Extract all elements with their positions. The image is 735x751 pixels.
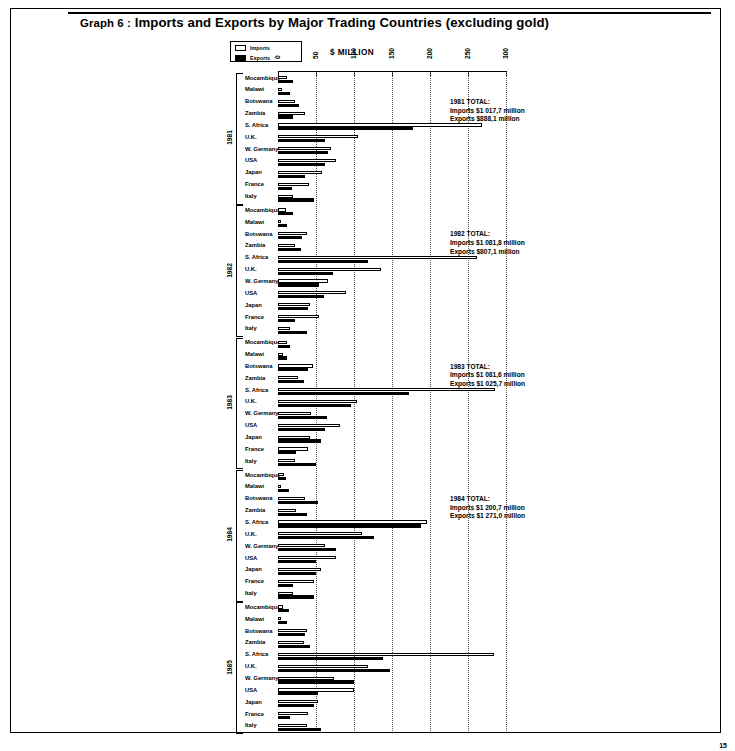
year-label-1982: 1982: [226, 263, 233, 278]
gridline-300: [506, 72, 507, 731]
bar-exports: [278, 356, 287, 359]
bar-exports: [278, 477, 286, 480]
x-tick-label-0: 0: [274, 55, 281, 59]
row-label-s-africa: S. Africa: [245, 387, 268, 393]
bar-imports: [278, 641, 304, 644]
bar-imports: [278, 159, 336, 162]
bar-exports: [278, 451, 296, 454]
row-label-italy: Italy: [245, 722, 257, 728]
bar-imports: [278, 412, 311, 415]
row-label-usa: USA: [245, 687, 257, 693]
bar-exports: [278, 104, 299, 107]
bar-exports: [278, 489, 289, 492]
bar-imports: [278, 76, 287, 79]
total-note-line: Imports $1 081,8 million: [450, 239, 525, 248]
total-note-line: Imports $1 017,7 million: [450, 107, 525, 116]
bar-exports: [278, 115, 293, 118]
total-note-line: 1984 TOTAL:: [450, 495, 525, 504]
bar-exports: [278, 319, 295, 322]
bar-imports: [278, 376, 298, 379]
bar-imports: [278, 112, 305, 115]
total-note-1981: 1981 TOTAL:Imports $1 017,7 millionExpor…: [450, 98, 525, 124]
bar-imports: [278, 147, 331, 150]
bar-imports: [278, 605, 283, 608]
bar-exports: [278, 127, 413, 130]
bar-exports: [278, 380, 304, 383]
row-label-usa: USA: [245, 290, 257, 296]
row-label-u-k: U.K.: [245, 663, 257, 669]
bar-exports: [278, 80, 293, 83]
bar-exports: [278, 295, 324, 298]
bar-imports: [278, 509, 296, 512]
total-note-line: 1982 TOTAL:: [450, 230, 525, 239]
gridline-250: [468, 72, 469, 731]
bar-imports: [278, 135, 358, 138]
legend-item-imports: Imports: [233, 44, 299, 53]
row-label-botswana: Botswana: [245, 98, 272, 104]
graph-title-text: Imports and Exports by Major Trading Cou…: [135, 15, 549, 30]
row-label-w-germany: W. Germany: [245, 410, 279, 416]
year-bracket-1982: [236, 205, 243, 337]
bar-exports: [278, 501, 318, 504]
row-label-s-africa: S. Africa: [245, 651, 268, 657]
row-label-malawi: Malawi: [245, 483, 264, 489]
bar-imports: [278, 195, 293, 198]
bar-exports: [278, 236, 302, 239]
x-tick-label-100: 100: [350, 48, 357, 59]
title-rule: [68, 12, 711, 14]
bar-exports: [278, 198, 314, 201]
total-note-line: 1981 TOTAL:: [450, 98, 525, 107]
year-label-1985: 1985: [226, 660, 233, 675]
row-label-w-germany: W. Germany: [245, 278, 279, 284]
bar-exports: [278, 331, 307, 334]
bar-exports: [278, 139, 325, 142]
bar-exports: [278, 536, 374, 539]
bar-imports: [278, 497, 305, 500]
page-number: 15: [719, 742, 727, 749]
total-note-line: Exports $1 025,7 million: [450, 380, 525, 389]
x-tick-label-150: 150: [388, 48, 395, 59]
bar-imports: [278, 677, 334, 680]
row-label-usa: USA: [245, 157, 257, 163]
bar-imports: [278, 700, 318, 703]
row-label-france: France: [245, 314, 264, 320]
row-label-mocambique: Mocambique: [245, 339, 280, 345]
row-label-mocambique: Mocambique: [245, 75, 280, 81]
bar-exports: [278, 548, 336, 551]
bar-exports: [278, 92, 290, 95]
row-label-japan: Japan: [245, 434, 262, 440]
x-tick-label-250: 250: [464, 48, 471, 59]
bar-imports: [278, 485, 281, 488]
bar-exports: [278, 524, 421, 527]
x-tick-label-200: 200: [426, 48, 433, 59]
bar-exports: [278, 248, 301, 251]
bar-imports: [278, 123, 482, 126]
bar-exports: [278, 224, 287, 227]
row-label-zambia: Zambia: [245, 242, 265, 248]
bar-exports: [278, 283, 319, 286]
bar-imports: [278, 364, 313, 367]
bar-imports: [278, 629, 307, 632]
bar-imports: [278, 232, 307, 235]
row-label-italy: Italy: [245, 193, 257, 199]
bar-imports: [278, 568, 321, 571]
graph-number-label: Graph 6 :: [80, 17, 131, 29]
bar-exports: [278, 345, 290, 348]
row-label-france: France: [245, 181, 264, 187]
bar-imports: [278, 171, 322, 174]
bar-exports: [278, 572, 316, 575]
bar-exports: [278, 513, 307, 516]
bar-exports: [278, 633, 305, 636]
total-note-1983: 1983 TOTAL:Imports $1 081,6 millionExpor…: [450, 363, 525, 389]
row-label-mocambique: Mocambique: [245, 604, 280, 610]
row-label-japan: Japan: [245, 566, 262, 572]
bar-imports: [278, 291, 346, 294]
row-label-s-africa: S. Africa: [245, 122, 268, 128]
year-bracket-1984: [236, 470, 243, 602]
bar-exports: [278, 439, 321, 442]
bar-exports: [278, 212, 293, 215]
bar-imports: [278, 88, 282, 91]
year-label-1981: 1981: [226, 130, 233, 145]
row-label-zambia: Zambia: [245, 507, 265, 513]
bar-imports: [278, 520, 427, 523]
